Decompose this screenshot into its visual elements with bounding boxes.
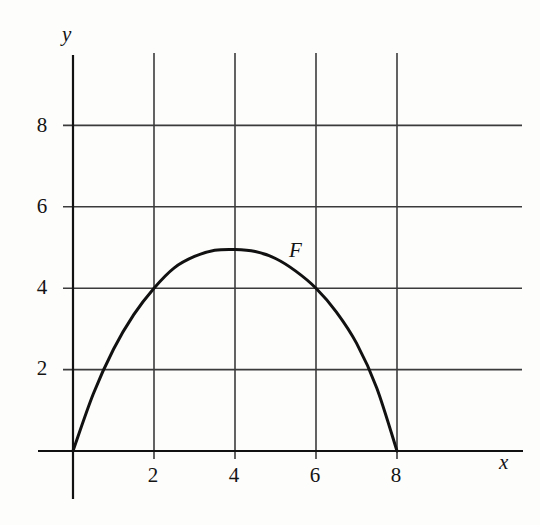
x-tick-label-4: 4 bbox=[223, 465, 245, 486]
y-tick-label-4: 4 bbox=[30, 277, 54, 298]
y-tick-label-2: 2 bbox=[30, 358, 54, 379]
x-tick-label-8: 8 bbox=[385, 465, 407, 486]
plot-canvas bbox=[0, 0, 540, 525]
y-tick-label-6: 6 bbox=[30, 196, 54, 217]
x-axis-label: x bbox=[499, 452, 508, 473]
x-tick-label-6: 6 bbox=[304, 465, 326, 486]
y-tick-label-8: 8 bbox=[30, 115, 54, 136]
graph-figure: 8 6 4 2 2 4 6 8 y x F bbox=[0, 0, 540, 525]
curve-label-F: F bbox=[289, 240, 302, 261]
y-axis-label: y bbox=[62, 24, 71, 45]
axes-group bbox=[38, 55, 523, 499]
x-tick-label-2: 2 bbox=[142, 465, 164, 486]
